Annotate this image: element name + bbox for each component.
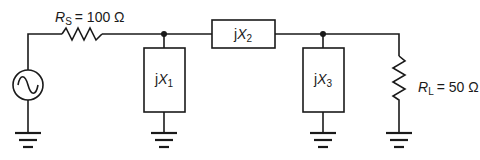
rs-label: RS= 100 Ω [55, 9, 125, 27]
ground-icon [151, 133, 177, 147]
circuit-diagram: RS= 100 Ω jX1 jX2 jX3 [0, 0, 480, 160]
shunt-x1: jX1 [144, 31, 185, 147]
shunt-x3: jX3 [303, 31, 344, 147]
resistor-rs-zigzag-icon [62, 28, 102, 40]
resistor-rl-zigzag-icon [393, 56, 405, 133]
ground-icon [15, 133, 41, 147]
ground-icon [310, 133, 336, 147]
ground-icon [386, 133, 412, 147]
resistor-rl: RL= 50 Ω [386, 56, 479, 147]
series-x2: jX2 [212, 20, 275, 48]
resistor-rs: RS= 100 Ω [55, 9, 125, 40]
rl-label: RL= 50 Ω [418, 79, 479, 97]
ac-source [13, 70, 43, 147]
